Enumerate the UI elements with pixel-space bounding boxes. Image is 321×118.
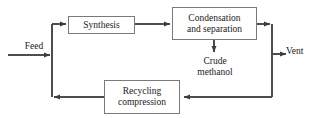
- process-flow-diagram: Synthesis Condensation and separation Re…: [0, 0, 321, 118]
- stream-label-vent: Vent: [286, 46, 320, 57]
- node-recycling-label: Recycling compression: [118, 86, 166, 107]
- stream-label-crude-methanol: Crude methanol: [180, 56, 250, 77]
- node-synthesis-label: Synthesis: [83, 20, 119, 31]
- node-recycling[interactable]: Recycling compression: [104, 80, 180, 114]
- node-condensation[interactable]: Condensation and separation: [172, 7, 257, 40]
- stream-label-feed: Feed: [14, 41, 54, 52]
- node-condensation-label: Condensation and separation: [187, 13, 242, 34]
- node-synthesis[interactable]: Synthesis: [68, 16, 135, 34]
